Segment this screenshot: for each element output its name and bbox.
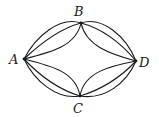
edge-b-d-outer bbox=[81, 22, 136, 61]
vertex-label-d: D bbox=[138, 55, 150, 70]
vertex-label-c: C bbox=[73, 101, 83, 116]
edge-a-b-outer bbox=[24, 22, 81, 59]
vertex-d bbox=[135, 60, 138, 63]
edge-b-d-concave bbox=[81, 23, 136, 61]
vertex-c bbox=[79, 95, 82, 98]
edge-a-c-outer bbox=[24, 59, 80, 97]
edge-b-d-inner bbox=[81, 23, 136, 61]
vertex-b bbox=[80, 22, 83, 25]
edge-a-b-concave bbox=[24, 23, 81, 59]
edge-c-d-concave bbox=[80, 61, 136, 96]
graph-diagram: A B C D bbox=[0, 0, 159, 117]
edge-c-d-inner bbox=[80, 61, 136, 96]
edge-a-b-inner bbox=[24, 23, 81, 59]
vertex-label-b: B bbox=[73, 4, 84, 19]
vertex-label-a: A bbox=[8, 52, 18, 67]
vertex-a bbox=[23, 58, 26, 61]
